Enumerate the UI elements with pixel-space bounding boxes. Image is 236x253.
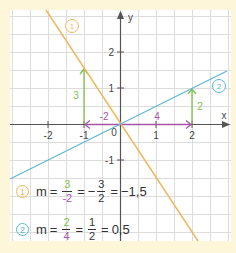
y-tick-label: 2 [108,47,114,58]
equals-sign: = [77,184,85,199]
numerator: 2 [63,217,69,228]
line-2-badge: 2 [217,82,222,91]
equals-sign: = [101,222,109,237]
line-1-badge: 1 [70,22,75,31]
x-tick-label: 1 [153,130,159,141]
equals-sign: = [110,184,118,199]
rise-label-1: 3 [73,90,79,101]
run-label-2: 4 [154,111,160,122]
slope-result: −1,5 [121,184,147,199]
x-tick-label: 2 [189,130,195,141]
equals-sign: = [50,222,58,237]
y-tick-label: 1 [108,83,114,94]
slope-result: 0,5 [112,222,130,237]
numerator: 3 [64,179,70,190]
denominator: 2 [89,231,95,242]
denominator: 4 [63,231,69,242]
x-axis-label: x [222,110,227,121]
rise-label-2: 2 [197,101,203,112]
formula-2-badge: 2 [16,223,29,236]
y-axis-label: y [128,12,133,23]
formula-line-2: 2 m = 2 4 = 1 2 = 0,5 [16,217,130,242]
minus-sign: − [88,184,96,199]
coordinate-plot: x y -2 -1 0 1 2 2 1 -1 -2 3 4 2 1 2 [0,0,236,253]
numerator: 1 [89,217,95,228]
slope-symbol: m [36,222,47,237]
slope-symbol: m [36,184,47,199]
formula-line-1: 1 m = 3 -2 = − 3 2 = −1,5 [16,179,147,204]
denominator: 2 [98,193,104,204]
formula-1-badge: 1 [16,185,29,198]
run-label-1: -2 [100,111,109,122]
x-tick-label: -1 [80,130,89,141]
fraction-rise-run: 3 -2 [62,179,72,204]
equals-sign: = [75,222,83,237]
fraction-simplified: 3 2 [97,179,105,204]
numerator: 3 [98,179,104,190]
fraction-simplified: 1 2 [88,217,96,242]
equals-sign: = [50,184,58,199]
y-tick-label: -1 [105,155,114,166]
denominator: -2 [62,193,72,204]
fraction-rise-run: 2 4 [62,217,70,242]
x-tick-label: -2 [44,130,53,141]
